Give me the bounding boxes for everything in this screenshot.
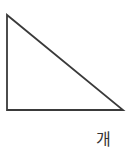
triangle-diagram xyxy=(0,0,133,154)
right-triangle xyxy=(7,15,123,110)
triangle-label: 개 xyxy=(96,130,111,150)
